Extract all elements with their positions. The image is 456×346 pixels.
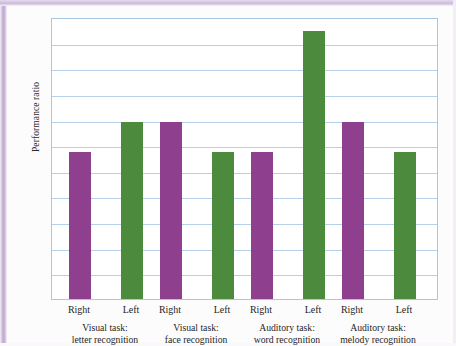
bar-right-group-3: [251, 152, 273, 299]
x-tick-label-right: Right: [140, 304, 200, 315]
page-edge-left: [0, 0, 7, 346]
x-tick-label-right: Right: [322, 304, 382, 315]
plot-area: [51, 18, 438, 300]
page-edge-top: [0, 0, 456, 6]
bar-right-group-2: [160, 122, 182, 299]
x-tick-label-right: Right: [231, 304, 291, 315]
group-label-line2: melody recognition: [313, 334, 443, 346]
chart-figure: Performance ratio 2.01.81.61.41.21.0.8.6…: [0, 0, 456, 346]
bar-right-group-1: [69, 152, 91, 299]
bar-left-group-4: [394, 152, 416, 299]
bar-left-group-3: [303, 31, 325, 299]
bar-series-layer: [52, 19, 437, 299]
y-axis-title: Performance ratio: [31, 37, 41, 197]
group-label-4: Auditory task:melody recognition: [313, 322, 443, 345]
group-label-line1: Auditory task:: [313, 322, 443, 334]
bar-left-group-1: [121, 122, 143, 299]
bar-left-group-2: [212, 152, 234, 299]
bar-right-group-4: [342, 122, 364, 299]
x-tick-label-right: Right: [49, 304, 109, 315]
x-tick-label-left: Left: [374, 304, 434, 315]
